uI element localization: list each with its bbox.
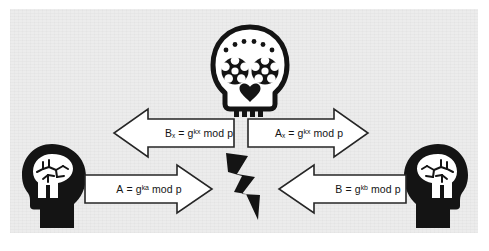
message-arrow-lower-right[interactable]: B = gkb mod p xyxy=(277,163,407,215)
message-arrow-upper-left[interactable]: Bx = gkx mod p xyxy=(112,107,234,159)
right-participant xyxy=(399,142,471,228)
interception-point xyxy=(222,150,272,222)
attacker xyxy=(206,24,294,120)
message-arrow-upper-right[interactable]: Ax = gkx mod p xyxy=(248,107,370,159)
message-arrow-lower-left[interactable]: A = gka mod p xyxy=(84,163,214,215)
sugar-skull-icon xyxy=(206,24,294,120)
head-with-brain-icon xyxy=(399,142,471,228)
diagram-canvas: Bx = gkx mod p Ax = gkx mod p A = gka mo… xyxy=(0,0,489,251)
left-participant xyxy=(19,142,91,228)
head-with-brain-icon xyxy=(19,142,91,228)
lightning-bolt-icon xyxy=(222,150,272,222)
